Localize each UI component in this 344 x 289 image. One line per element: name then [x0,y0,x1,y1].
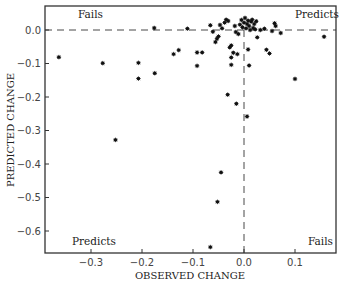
data-point [208,245,213,250]
y-tick-label: −0.6 [17,226,41,237]
data-point [234,101,239,106]
y-tick-label: 0.0 [25,25,41,36]
data-point [229,55,234,60]
x-tick-label: −0.3 [79,257,103,268]
quadrant-label-top-right: Predicts [295,8,339,20]
x-tick-label: −0.2 [130,257,154,268]
data-point [219,170,224,175]
data-point [235,52,240,57]
data-point [245,114,250,119]
data-point [176,48,181,53]
data-point [233,24,238,29]
plot-border [45,6,336,253]
data-point [322,34,327,39]
x-tick-label: −0.1 [181,257,205,268]
data-point [195,64,200,69]
data-point [278,31,283,36]
data-point [136,76,141,81]
quadrant-label-bottom-left: Predicts [72,235,116,247]
data-point [270,29,275,34]
data-point [152,71,157,76]
data-point [113,138,118,143]
data-point [208,23,213,28]
x-tick-label: 0.1 [287,257,303,268]
x-axis: −0.3−0.2−0.10.00.1 [79,249,303,268]
data-point [231,50,236,55]
quadrant-label-top-left: Fails [78,8,103,20]
x-tick-label: 0.0 [236,257,252,268]
data-point [218,23,223,28]
data-point [267,51,272,56]
data-point [215,200,220,205]
plot-frame [45,6,336,253]
data-point [200,50,205,55]
y-axis: 0.0−0.1−0.2−0.3−0.4−0.5−0.6 [17,25,49,237]
quadrant-label-bottom-right: Fails [308,235,333,247]
y-tick-label: −0.4 [17,159,41,170]
scatter-chart: −0.3−0.2−0.10.00.1 0.0−0.1−0.2−0.3−0.4−0… [0,0,344,289]
data-point [264,47,269,52]
data-point [225,92,230,97]
y-tick-label: −0.3 [17,125,41,136]
data-point [293,77,298,82]
data-point [195,50,200,55]
y-axis-title: PREDICTED CHANGE [5,73,16,187]
data-point [255,35,260,40]
reference-lines [45,30,336,253]
data-point [171,52,176,57]
data-point [100,61,105,66]
y-tick-label: −0.2 [17,92,41,103]
y-tick-label: −0.5 [17,192,41,203]
data-point [258,28,263,33]
data-point [136,61,141,66]
data-point [246,47,251,52]
y-tick-label: −0.1 [17,58,41,69]
x-axis-title: OBSERVED CHANGE [135,270,245,281]
data-point [57,55,62,60]
data-point [220,26,225,31]
data-points [57,16,327,250]
data-point [247,63,252,68]
data-point [229,63,234,68]
